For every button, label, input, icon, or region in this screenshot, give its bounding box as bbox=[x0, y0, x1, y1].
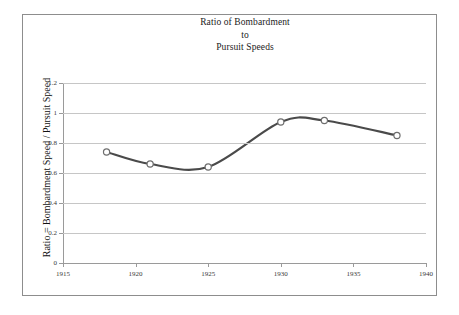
y-axis-tick-label: 1 bbox=[54, 109, 58, 117]
gridline-y bbox=[63, 83, 426, 84]
y-axis-tick bbox=[59, 143, 63, 144]
x-axis-tick-label: 1940 bbox=[419, 270, 433, 278]
x-axis-tick bbox=[281, 263, 282, 267]
x-axis-tick-label: 1925 bbox=[201, 270, 215, 278]
x-axis-tick bbox=[63, 263, 64, 267]
x-axis-tick bbox=[136, 263, 137, 267]
gridline-y bbox=[63, 233, 426, 234]
gridline-y bbox=[63, 143, 426, 144]
data-point-marker bbox=[394, 132, 400, 138]
data-point-marker bbox=[103, 149, 109, 155]
x-axis-tick-label: 1915 bbox=[56, 270, 70, 278]
y-axis-tick bbox=[59, 173, 63, 174]
y-axis-tick bbox=[59, 203, 63, 204]
y-axis-tick bbox=[59, 233, 63, 234]
data-point-marker bbox=[278, 119, 284, 125]
y-axis-label: Ratio = Bombardment Speed / Pursuit Spee… bbox=[41, 63, 52, 273]
x-axis-tick-label: 1935 bbox=[346, 270, 360, 278]
y-axis-tick bbox=[59, 113, 63, 114]
x-axis-line bbox=[63, 263, 427, 264]
chart-title: Ratio of Bombardment to Pursuit Speeds bbox=[60, 16, 430, 54]
data-point-marker bbox=[205, 164, 211, 170]
chart-figure: Ratio of Bombardment to Pursuit Speeds R… bbox=[0, 0, 459, 315]
x-axis-tick-label: 1920 bbox=[129, 270, 143, 278]
x-axis-tick bbox=[353, 263, 354, 267]
y-axis-tick-label: 0.6 bbox=[48, 169, 57, 177]
x-axis-tick-label: 1930 bbox=[274, 270, 288, 278]
data-point-marker bbox=[147, 161, 153, 167]
chart-title-line-2: to bbox=[60, 29, 430, 42]
data-point-marker bbox=[321, 117, 327, 123]
x-axis-tick bbox=[426, 263, 427, 267]
plot-area: 00.20.40.60.811.219151920192519301935194… bbox=[63, 83, 426, 263]
x-axis-tick bbox=[208, 263, 209, 267]
y-axis-tick-label: 0.4 bbox=[48, 199, 57, 207]
y-axis-tick-label: 0.2 bbox=[48, 229, 57, 237]
gridline-y bbox=[63, 203, 426, 204]
y-axis-tick-label: 0 bbox=[54, 259, 58, 267]
gridline-y bbox=[63, 173, 426, 174]
chart-title-line-1: Ratio of Bombardment bbox=[60, 16, 430, 29]
y-axis-tick-label: 0.8 bbox=[48, 139, 57, 147]
y-axis-tick-label: 1.2 bbox=[48, 79, 57, 87]
y-axis-tick bbox=[59, 83, 63, 84]
gridline-y bbox=[63, 113, 426, 114]
chart-title-line-3: Pursuit Speeds bbox=[60, 41, 430, 54]
